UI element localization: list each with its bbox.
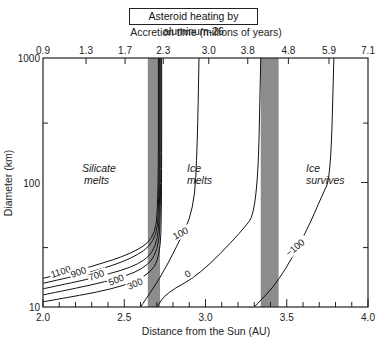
x-tick-label: 4.0 bbox=[361, 312, 375, 323]
y-axis-label: Diameter (km) bbox=[2, 150, 14, 217]
y-tick-label: 1000 bbox=[18, 53, 41, 64]
x2-tick-label: 1.7 bbox=[118, 45, 132, 56]
x2-tick-label: 4.8 bbox=[281, 45, 295, 56]
x2-tick-label: 2.3 bbox=[156, 45, 170, 56]
x2-tick-label: 3.0 bbox=[202, 45, 216, 56]
shaded-band-outer bbox=[261, 58, 279, 307]
x2-axis-label: Accretion time (millions of years) bbox=[130, 26, 282, 38]
x-tick-label: 2.5 bbox=[117, 312, 131, 323]
x2-tick-label: 5.9 bbox=[322, 45, 336, 56]
region-label-ice-melts-2: melts bbox=[187, 174, 213, 186]
x-tick-label: 3.5 bbox=[280, 312, 294, 323]
y-tick-label: 100 bbox=[23, 178, 40, 189]
x-axis-label: Distance from the Sun (AU) bbox=[142, 325, 270, 337]
x2-tick-label: 1.3 bbox=[79, 45, 93, 56]
x-tick-label: 2.0 bbox=[36, 312, 50, 323]
region-label-silicate-melts: Silicate bbox=[82, 162, 116, 174]
y-tick-label: 10 bbox=[29, 302, 41, 313]
region-label-ice-survives: Ice bbox=[306, 162, 320, 174]
region-label-silicate-melts-2: melts bbox=[84, 174, 110, 186]
chart-canvas: 11009007005003001000−100 2.02.53.03.54.0… bbox=[0, 0, 386, 346]
x-tick-label: 3.0 bbox=[199, 312, 213, 323]
region-label-ice-survives-2: survives bbox=[306, 174, 345, 186]
x2-tick-label: 3.8 bbox=[241, 45, 255, 56]
region-label-ice-melts: Ice bbox=[187, 162, 201, 174]
x2-tick-label: 7.1 bbox=[361, 45, 375, 56]
